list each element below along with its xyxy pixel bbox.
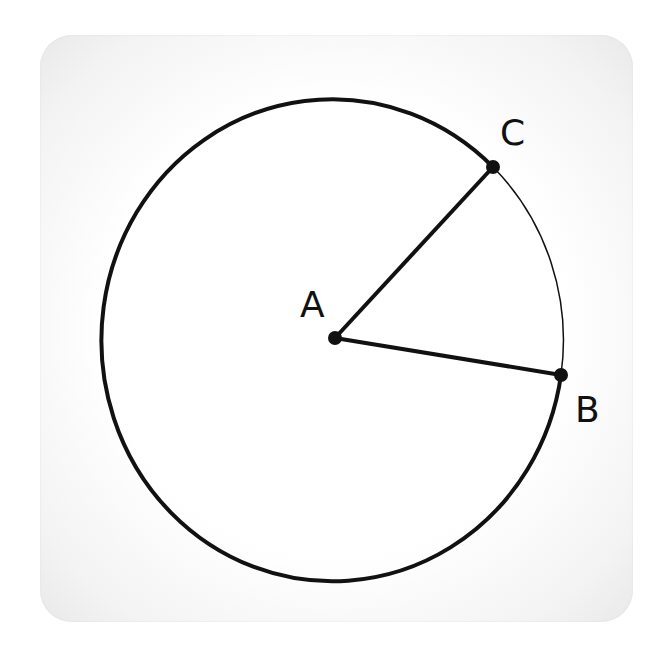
point-b bbox=[554, 368, 568, 382]
label-c: C bbox=[500, 112, 525, 153]
point-c bbox=[486, 160, 500, 174]
label-a: A bbox=[300, 284, 325, 325]
circle-minor-arc-bc bbox=[493, 167, 563, 375]
point-a bbox=[328, 331, 342, 345]
label-b: B bbox=[575, 389, 600, 430]
circle-diagram: A C B bbox=[0, 0, 665, 655]
radius-ac bbox=[335, 167, 493, 338]
radius-ab bbox=[335, 338, 561, 375]
